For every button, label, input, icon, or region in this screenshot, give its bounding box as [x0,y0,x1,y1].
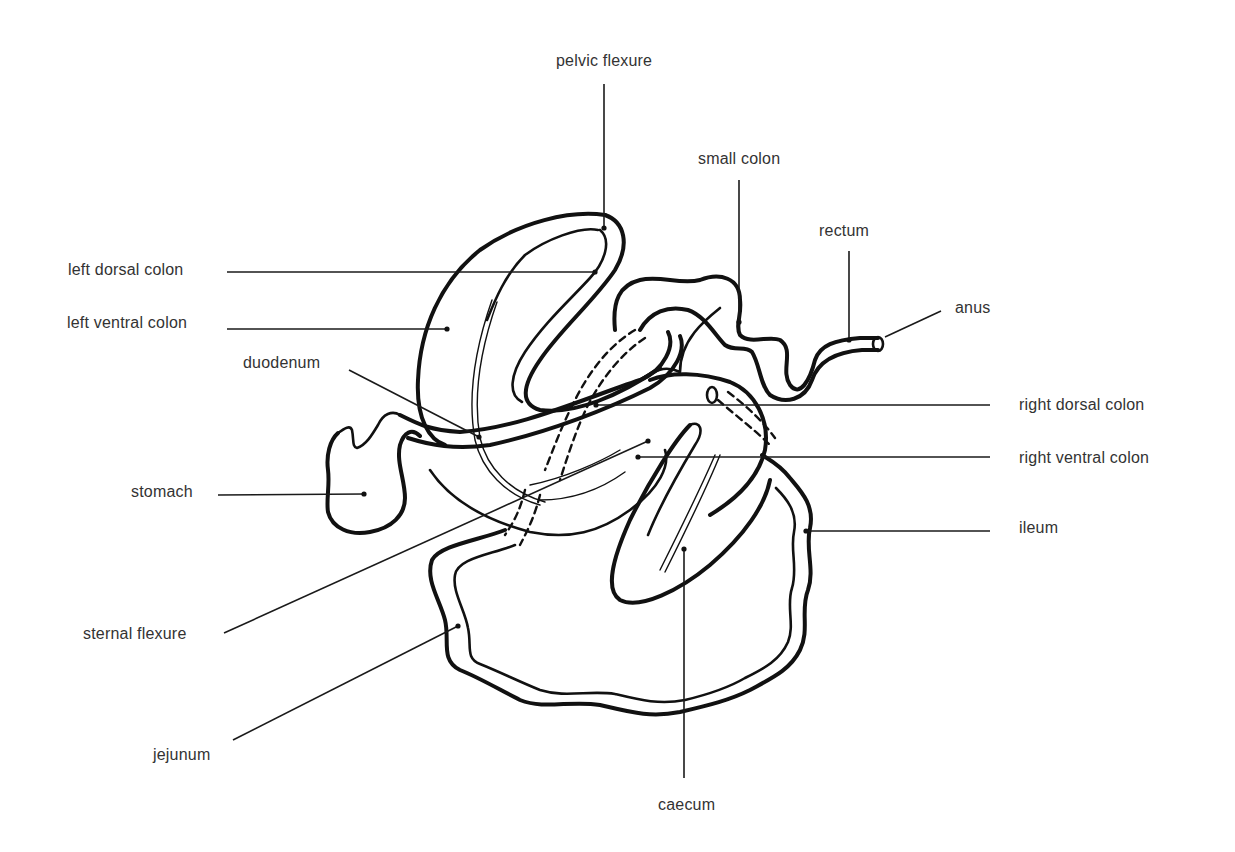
label-stomach: stomach [131,483,193,501]
caecum-shape [612,374,775,602]
label-jejunum: jejunum [153,746,210,764]
label-caecum: caecum [658,796,715,814]
duodenum-shape [400,332,682,447]
leader-duodenum [349,370,479,437]
label-duodenum: duodenum [243,354,320,372]
leader-lines [218,84,990,778]
label-small-colon: small colon [698,150,780,168]
label-pelvic-flexure: pelvic flexure [556,52,652,70]
leader-jejunum [233,626,458,740]
digestive-tract-drawing [0,0,1235,852]
label-right-ventral-colon: right ventral colon [1019,449,1149,467]
label-ileum: ileum [1019,519,1058,537]
leader-stomach [218,494,364,495]
left-colon-shape [418,214,666,535]
leader-anus [885,311,941,337]
label-left-dorsal-colon: left dorsal colon [68,261,183,279]
leader-sternal-flexure [224,441,648,633]
label-sternal-flexure: sternal flexure [83,625,187,643]
label-rectum: rectum [819,222,869,240]
label-right-dorsal-colon: right dorsal colon [1019,396,1144,414]
label-anus: anus [955,299,991,317]
small-colon-shape [614,277,883,400]
anatomy-diagram: pelvic flexure small colon rectum anus l… [0,0,1235,852]
label-left-ventral-colon: left ventral colon [67,314,187,332]
stomach-shape [327,413,420,533]
jejunum-ileum-shape [430,455,811,714]
